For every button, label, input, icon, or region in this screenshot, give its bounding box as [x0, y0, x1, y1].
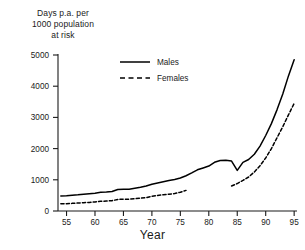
x-tick-label: 75	[176, 218, 186, 227]
chart-figure: Days p.a. per 1000 population at risk 01…	[0, 0, 305, 250]
x-axis-title: Year	[0, 228, 305, 242]
y-axis-title: Days p.a. per 1000 population at risk	[8, 8, 118, 41]
y-tick-label: 4000	[31, 82, 50, 91]
y-axis-title-line-2: 1000 population	[8, 19, 118, 30]
y-tick-label: 0	[44, 207, 49, 216]
y-axis-ticks: 010002000300040005000	[31, 51, 58, 216]
legend-label-males: Males	[157, 58, 179, 67]
y-tick-label: 2000	[31, 145, 50, 154]
y-tick-label: 3000	[31, 113, 50, 122]
x-tick-label: 65	[119, 218, 129, 227]
x-tick-label: 55	[62, 218, 72, 227]
chart-legend: MalesFemales	[120, 58, 188, 83]
x-tick-label: 60	[90, 218, 100, 227]
y-tick-label: 1000	[31, 176, 50, 185]
y-axis-title-line-1: Days p.a. per	[8, 8, 118, 19]
y-tick-label: 5000	[31, 51, 50, 60]
y-axis-title-line-3: at risk	[8, 30, 118, 41]
x-tick-label: 70	[147, 218, 157, 227]
x-tick-label: 95	[290, 218, 300, 227]
series-line-females	[61, 190, 186, 203]
x-tick-label: 90	[261, 218, 271, 227]
x-tick-label: 80	[204, 218, 214, 227]
series-line-females-segment-2	[232, 103, 295, 186]
x-axis-ticks: 556065707580859095	[62, 211, 299, 227]
legend-label-females: Females	[157, 74, 188, 83]
x-tick-label: 85	[233, 218, 243, 227]
